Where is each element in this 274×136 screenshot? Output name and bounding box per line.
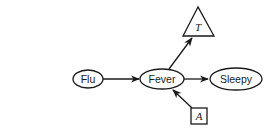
node-a: A: [191, 108, 207, 124]
node-sleepy-label: Sleepy: [220, 73, 253, 85]
node-flu: Flu: [73, 70, 103, 88]
node-flu-label: Flu: [81, 73, 96, 85]
node-sleepy: Sleepy: [210, 68, 262, 90]
node-t: T: [183, 7, 214, 36]
node-a-label: A: [195, 110, 203, 122]
edge-a-to-fever: [173, 90, 192, 108]
influence-diagram: Flu Fever Sleepy T A: [0, 0, 274, 136]
node-t-label: T: [195, 21, 202, 33]
edge-fever-to-t: [169, 38, 192, 69]
node-fever: Fever: [140, 69, 184, 89]
node-fever-label: Fever: [149, 73, 176, 85]
